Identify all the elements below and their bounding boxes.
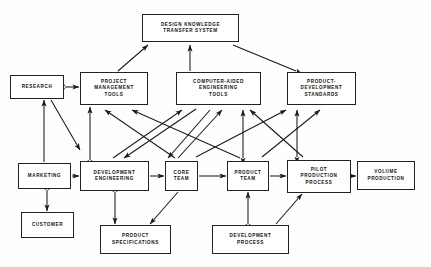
edge-computer_aided_engineering_tools-to-core_team: [168, 110, 210, 158]
node-label: CORE TEAM: [172, 170, 192, 183]
edge-product_team-to-product_development_standards: [262, 110, 320, 157]
node-core_team[interactable]: CORE TEAM: [165, 161, 198, 191]
edge-research-to-development_engineering: [51, 100, 80, 150]
node-research[interactable]: RESEARCH: [10, 75, 64, 99]
node-label: MARKETING: [26, 173, 63, 179]
node-product_team[interactable]: PRODUCT TEAM: [227, 161, 269, 191]
node-label: COMPUTER-AIDED ENGINEERING TOOLS: [191, 79, 246, 98]
edge-pilot_production_process-to-computer_aided_engineering_tools: [250, 110, 303, 157]
node-customer[interactable]: CUSTOMER: [21, 212, 74, 238]
node-label: PROJECT MANAGEMENT TOOLS: [92, 79, 136, 98]
node-label: VOLUME PRODUCTION: [365, 169, 406, 182]
node-product_development_standards[interactable]: PRODUCT- DEVELOPMENT STANDARDS: [287, 72, 356, 105]
edge-development_process-to-pilot_production_process: [276, 194, 302, 224]
node-label: RESEARCH: [20, 84, 55, 90]
edge-core_team-to-computer_aided_engineering_tools: [178, 110, 222, 158]
node-marketing[interactable]: MARKETING: [18, 163, 71, 189]
node-label: PRODUCT SPECIFICATIONS: [110, 233, 161, 246]
node-development_engineering[interactable]: DEVELOPMENT ENGINEERING: [80, 161, 149, 191]
edge-core_team-to-project_management_tools: [105, 110, 175, 158]
node-project_management_tools[interactable]: PROJECT MANAGEMENT TOOLS: [80, 72, 148, 105]
edge-core_team-to-product_development_standards: [196, 110, 286, 157]
edge-computer_aided_engineering_tools-to-development_engineering: [124, 109, 196, 158]
diagram-canvas: DESIGN KNOWLEDGE TRANSFER SYSTEM RESEARC…: [0, 0, 431, 267]
node-label: DEVELOPMENT ENGINEERING: [92, 170, 138, 183]
node-label: PILOT PRODUCTION PROCESS: [298, 167, 339, 186]
edge-product_development_standards-to-design_knowledge_transfer_system: [233, 45, 296, 71]
node-design_knowledge_transfer_system[interactable]: DESIGN KNOWLEDGE TRANSFER SYSTEM: [142, 14, 239, 42]
node-volume_production[interactable]: VOLUME PRODUCTION: [357, 161, 415, 190]
node-label: DESIGN KNOWLEDGE TRANSFER SYSTEM: [159, 22, 222, 35]
node-computer_aided_engineering_tools[interactable]: COMPUTER-AIDED ENGINEERING TOOLS: [176, 72, 261, 105]
node-label: PRODUCT TEAM: [232, 170, 263, 183]
edge-product_team-to-project_management_tools: [132, 110, 240, 158]
node-development_process[interactable]: DEVELOPMENT PROCESS: [212, 225, 289, 254]
node-label: DEVELOPMENT PROCESS: [228, 233, 274, 246]
node-pilot_production_process[interactable]: PILOT PRODUCTION PROCESS: [287, 160, 351, 193]
node-label: PRODUCT- DEVELOPMENT STANDARDS: [299, 79, 345, 98]
edge-project_management_tools-to-design_knowledge_transfer_system: [118, 45, 148, 71]
edge-development_engineering-to-computer_aided_engineering_tools: [113, 110, 182, 158]
node-product_specifications[interactable]: PRODUCT SPECIFICATIONS: [100, 225, 171, 254]
edge-core_team-to-product_specifications: [150, 192, 178, 224]
node-label: CUSTOMER: [30, 222, 65, 228]
